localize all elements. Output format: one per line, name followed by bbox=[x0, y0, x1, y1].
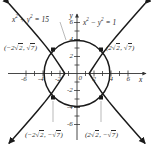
x-axis-label: x bbox=[139, 76, 142, 84]
point-marker-top-left bbox=[51, 48, 55, 52]
origin-label: 0 bbox=[79, 75, 83, 82]
y-tick-label-2: 2 bbox=[70, 53, 74, 60]
x-tick-label-4: 4 bbox=[110, 76, 114, 83]
point-label-top-right: (2√2, √7) bbox=[106, 45, 134, 52]
x-tick-label-2: 2 bbox=[93, 76, 97, 83]
point-marker-bottom-left bbox=[51, 96, 55, 100]
point-label-bottom-left: (−2√2, −√7) bbox=[25, 132, 63, 139]
point-label-bottom-right: (2√2, −√7) bbox=[85, 132, 118, 139]
circle-equation-label: x2 + y2 = 15 bbox=[12, 14, 49, 23]
x-tick-label--4: -4 bbox=[38, 76, 44, 83]
x-tick-label--6: -6 bbox=[21, 76, 27, 83]
y-tick-label-4: 4 bbox=[70, 36, 74, 43]
hyperbola-equation-label: x2 − y2 = 1 bbox=[83, 17, 116, 26]
math-figure: x2 + y2 = 15 x2 − y2 = 1 x y 0 -6 -4 -2 … bbox=[0, 0, 154, 147]
y-tick-label-6: 6 bbox=[70, 19, 74, 26]
y-tick-label--6: -6 bbox=[67, 121, 73, 128]
x-tick-label--2: -2 bbox=[55, 76, 61, 83]
point-label-top-left: (−2√2, √7) bbox=[4, 45, 37, 52]
point-marker-top-right bbox=[99, 48, 103, 52]
point-marker-bottom-right bbox=[99, 96, 103, 100]
leader-circle-label bbox=[60, 22, 66, 40]
y-tick-label--2: -2 bbox=[67, 87, 73, 94]
y-tick-label--4: -4 bbox=[67, 104, 73, 111]
x-tick-label-6: 6 bbox=[127, 76, 131, 83]
